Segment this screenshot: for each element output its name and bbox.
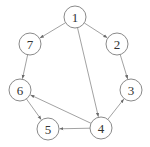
edge-1-to-4 xyxy=(78,28,99,117)
node-7: 7 xyxy=(19,33,41,55)
nodes-layer: 1234567 xyxy=(9,6,142,140)
node-label: 2 xyxy=(114,37,121,52)
node-label: 6 xyxy=(17,83,24,98)
node-label: 4 xyxy=(98,121,105,136)
node-6: 6 xyxy=(9,79,31,101)
node-1: 1 xyxy=(64,6,86,28)
node-label: 1 xyxy=(72,10,79,25)
node-2: 2 xyxy=(106,33,128,55)
edge-6-to-5 xyxy=(26,99,41,120)
node-label: 3 xyxy=(128,83,135,98)
edge-7-to-6 xyxy=(22,55,27,79)
node-4: 4 xyxy=(90,117,112,139)
edge-4-to-5 xyxy=(59,128,90,129)
edge-1-to-2 xyxy=(84,23,107,38)
node-5: 5 xyxy=(37,118,59,140)
edge-2-to-3 xyxy=(120,55,127,79)
node-3: 3 xyxy=(120,79,142,101)
node-label: 7 xyxy=(27,37,34,52)
node-label: 5 xyxy=(45,122,52,137)
edge-4-to-3 xyxy=(108,99,124,119)
directed-graph-diagram: 1234567 xyxy=(0,0,150,147)
edge-4-to-6 xyxy=(30,95,91,123)
edge-1-to-7 xyxy=(40,23,66,38)
